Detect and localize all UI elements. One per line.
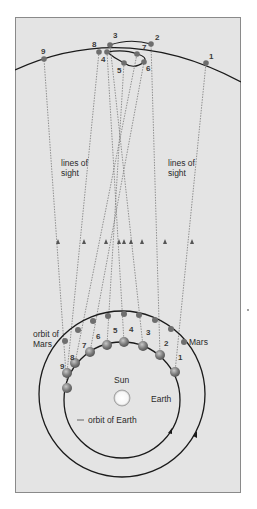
apparent-position-number: 9 bbox=[41, 47, 46, 56]
apparent-position-dot bbox=[203, 60, 209, 66]
retrograde-motion-diagram: 123456789 123456789 lines of sight lines… bbox=[0, 0, 257, 509]
earth-position-number: 8 bbox=[70, 353, 75, 362]
apparent-position-dot bbox=[96, 49, 102, 55]
orbit-of-earth-label: orbit of Earth bbox=[88, 415, 137, 425]
apparent-position-dot bbox=[148, 41, 154, 47]
orbit-of-mars-label-2: Mars bbox=[33, 339, 52, 349]
apparent-position-dot bbox=[134, 51, 140, 57]
sun-label: Sun bbox=[114, 375, 129, 385]
apparent-position-number: 4 bbox=[101, 55, 106, 64]
mars-position-dot bbox=[121, 311, 127, 317]
mars-position-dot bbox=[62, 338, 68, 344]
diagram-canvas: 123456789 123456789 lines of sight lines… bbox=[0, 0, 257, 509]
apparent-position-number: 3 bbox=[113, 31, 118, 40]
earth-position-number: 2 bbox=[164, 339, 169, 348]
apparent-position-dot bbox=[104, 49, 110, 55]
earth-position-ball bbox=[138, 341, 148, 351]
mars-position-dot bbox=[152, 317, 158, 323]
earth-position-number: 3 bbox=[146, 328, 151, 337]
earth-position-ball bbox=[62, 383, 72, 393]
apparent-position-number: 8 bbox=[92, 40, 97, 49]
earth-position-number: 9 bbox=[60, 362, 65, 371]
earth-position-number: 7 bbox=[82, 341, 87, 350]
sun-icon bbox=[114, 390, 130, 406]
mars-position-dot bbox=[181, 339, 187, 345]
apparent-position-dot bbox=[41, 56, 47, 62]
mars-position-dot bbox=[75, 327, 81, 333]
earth-position-ball bbox=[155, 350, 165, 360]
apparent-position-dot bbox=[107, 42, 113, 48]
stray-dot bbox=[247, 309, 249, 311]
mars-position-dot bbox=[105, 313, 111, 319]
mars-label: Mars bbox=[189, 337, 208, 347]
earth-position-ball bbox=[85, 347, 95, 357]
mars-position-dot bbox=[168, 326, 174, 332]
earth-label: Earth bbox=[151, 394, 172, 404]
earth-position-ball bbox=[170, 367, 180, 377]
apparent-position-number: 5 bbox=[117, 66, 122, 75]
earth-position-number: 1 bbox=[178, 353, 183, 362]
apparent-position-number: 2 bbox=[155, 33, 160, 42]
mars-position-dot bbox=[136, 312, 142, 318]
lines-of-sight-right-label-2: sight bbox=[168, 168, 187, 178]
earth-position-ball bbox=[119, 337, 129, 347]
apparent-position-number: 6 bbox=[146, 64, 151, 73]
earth-position-number: 5 bbox=[113, 326, 118, 335]
lines-of-sight-right-label: lines of bbox=[168, 158, 196, 168]
apparent-position-number: 1 bbox=[209, 52, 214, 61]
apparent-position-number: 7 bbox=[142, 43, 147, 52]
orbit-of-mars-label: orbit of bbox=[33, 329, 60, 339]
earth-position-number: 6 bbox=[96, 332, 101, 341]
lines-of-sight-left-label: lines of bbox=[61, 158, 89, 168]
earth-position-number: 4 bbox=[129, 325, 134, 334]
earth-position-ball bbox=[102, 340, 112, 350]
lines-of-sight-left-label-2: sight bbox=[61, 168, 80, 178]
mars-position-dot bbox=[90, 318, 96, 324]
apparent-position-dot bbox=[121, 60, 127, 66]
